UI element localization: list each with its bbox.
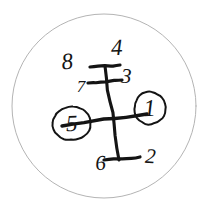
detent-top-upper [90, 65, 120, 67]
diagram-background [0, 0, 217, 212]
gear-label-4: 4 [111, 35, 123, 60]
gear-label-3: 3 [120, 64, 132, 88]
gear-position-4[interactable]: 4 [111, 35, 123, 60]
gear-label-5: 5 [66, 111, 78, 136]
gear-shift-pattern-diagram: 12345678 [0, 0, 217, 212]
shift-pattern-canvas: 12345678 [0, 0, 217, 212]
gear-label-1: 1 [143, 95, 156, 122]
gear-position-3[interactable]: 3 [120, 64, 132, 88]
